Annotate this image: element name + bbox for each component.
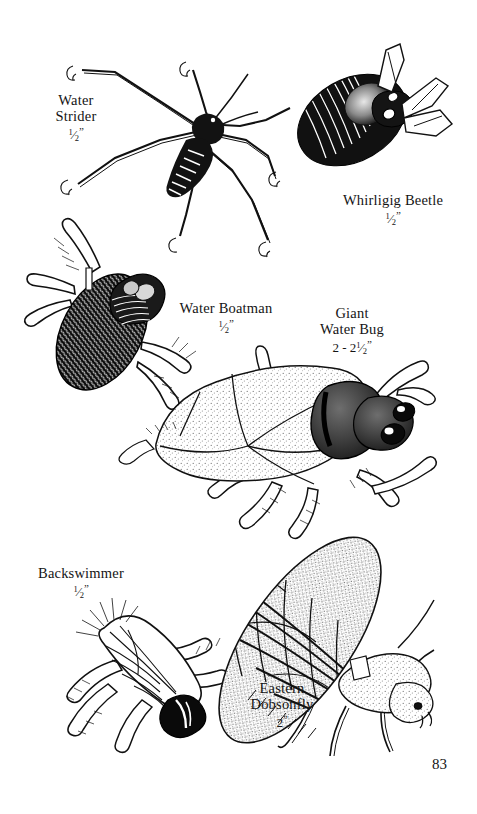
fraction-one-half: 1⁄2 bbox=[385, 212, 396, 227]
label-water-strider-line1: Water bbox=[20, 92, 132, 108]
whirligig-beetle-drawing bbox=[281, 44, 452, 185]
inch-mark: ” bbox=[396, 209, 400, 221]
label-backswimmer-size: 1⁄2” bbox=[10, 582, 152, 600]
label-water-strider-size: 1⁄2” bbox=[20, 125, 132, 143]
inch-mark: ” bbox=[79, 125, 83, 137]
label-whirligig-beetle-line1: Whirligig Beetle bbox=[318, 192, 468, 208]
inch-mark: ” bbox=[229, 317, 233, 329]
label-water-boatman: Water Boatman 1⁄2” bbox=[160, 300, 292, 335]
label-water-boatman-line1: Water Boatman bbox=[160, 300, 292, 316]
label-giant-water-bug-size: 2 - 21⁄2” bbox=[292, 338, 412, 356]
label-eastern-dobsonfly: Eastern Dobsonfly 2” bbox=[228, 680, 336, 731]
label-water-strider-line2: Strider bbox=[20, 108, 132, 124]
boatman-foreleg-pale bbox=[86, 268, 92, 290]
giant-bug-eye-upper-highlight bbox=[397, 406, 405, 412]
page-number: 83 bbox=[432, 756, 447, 773]
label-water-strider: Water Strider 1⁄2” bbox=[20, 92, 132, 144]
fraction-one-half: 1⁄2 bbox=[218, 320, 229, 335]
strider-eye bbox=[211, 118, 215, 122]
backswimmer-eyes bbox=[160, 695, 206, 737]
fraction-one-half: 1⁄2 bbox=[68, 128, 79, 143]
dobsonfly-pronotum bbox=[350, 656, 370, 680]
label-giant-water-bug-line1: Giant bbox=[292, 305, 412, 321]
field-guide-page: Water Strider 1⁄2” Whirligig Beetle 1⁄2”… bbox=[0, 0, 477, 814]
giant-bug-eye-lower-highlight bbox=[385, 428, 394, 435]
fraction-one-half: 1⁄2 bbox=[73, 585, 84, 600]
backswimmer-drawing bbox=[66, 598, 228, 752]
dobsonfly-antenna bbox=[398, 600, 434, 648]
label-eastern-dobsonfly-line1: Eastern bbox=[228, 680, 336, 696]
size-whole-number: 2 - 2 bbox=[333, 340, 357, 355]
inch-mark: ” bbox=[283, 713, 287, 725]
inch-mark: ” bbox=[84, 582, 88, 594]
label-whirligig-beetle-size: 1⁄2” bbox=[318, 209, 468, 227]
dobsonfly-eye bbox=[414, 703, 422, 710]
label-eastern-dobsonfly-line2: Dobsonfly bbox=[228, 696, 336, 712]
inch-mark: ” bbox=[367, 338, 371, 350]
label-eastern-dobsonfly-size: 2” bbox=[228, 713, 336, 730]
label-giant-water-bug-line2: Water Bug bbox=[292, 321, 412, 337]
strider-antennae bbox=[214, 74, 258, 126]
label-backswimmer-line1: Backswimmer bbox=[10, 565, 152, 581]
label-water-boatman-size: 1⁄2” bbox=[160, 317, 292, 335]
strider-abdomen bbox=[166, 138, 213, 198]
label-backswimmer: Backswimmer 1⁄2” bbox=[10, 565, 152, 600]
label-whirligig-beetle: Whirligig Beetle 1⁄2” bbox=[318, 192, 468, 227]
label-giant-water-bug: Giant Water Bug 2 - 21⁄2” bbox=[292, 305, 412, 357]
fraction-one-half: 1⁄2 bbox=[356, 341, 367, 356]
giant-bug-tail-appendage bbox=[119, 440, 154, 464]
giant-water-bug-drawing bbox=[119, 346, 436, 538]
